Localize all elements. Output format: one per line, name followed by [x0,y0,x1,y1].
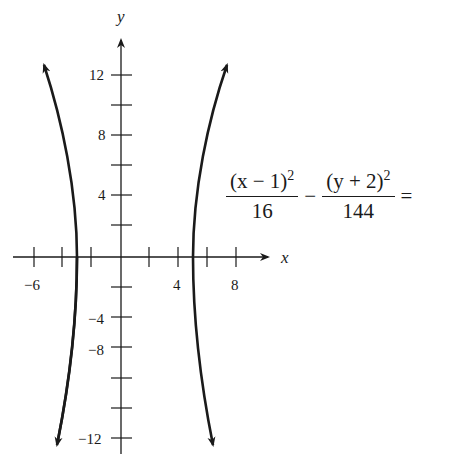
right-branch [193,65,227,257]
y-tick-label: 8 [98,127,106,143]
x-tick-label: −6 [24,277,40,293]
y-tick-label: 4 [98,187,106,203]
left-branch [44,65,77,440]
y-tick-label: −8 [88,342,104,358]
hyperbola-equation: (x − 1)2 16 − (y + 2)2 144 = [226,168,412,224]
minus-operator: − [304,184,316,209]
x-tick-label: 4 [173,277,181,293]
y-axis-label: y [115,7,125,26]
fraction-x: (x − 1)2 16 [226,168,298,224]
y-tick-label: −4 [88,311,104,327]
hyperbola-graph: −6 4 8 12 8 4 −4 −8 −12 x y [0,0,457,454]
fraction-y: (y + 2)2 144 [322,168,394,224]
equals-sign: = [401,184,413,209]
x-tick-label: 8 [231,277,239,293]
y-tick-label: 12 [89,67,104,83]
x-axis-label: x [280,248,289,267]
y-tick-label: −12 [78,431,101,447]
